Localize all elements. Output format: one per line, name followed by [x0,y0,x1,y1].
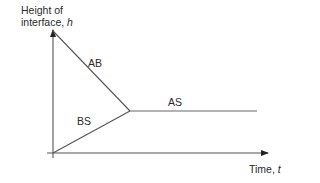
y-axis-label-prefix: interface, [21,16,67,28]
bs-boundary-line [53,111,130,153]
region-label-ab: AB [88,57,102,69]
region-label-as: AS [168,96,182,108]
x-axis-label-prefix: Time, [249,163,278,175]
x-axis-symbol: t [278,163,281,175]
region-label-bs: BS [77,115,91,127]
y-axis-symbol: h [67,16,73,28]
y-axis-label: Height of interface, h [21,5,73,28]
y-axis-label-line2: interface, h [21,17,73,29]
ab-boundary-line [53,31,130,111]
x-axis-label: Time, t [249,163,281,175]
